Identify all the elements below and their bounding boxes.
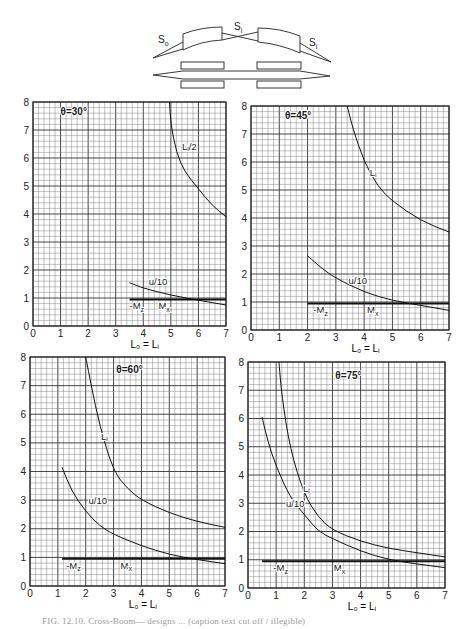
svg-text:1: 1 xyxy=(273,590,279,601)
svg-text:6: 6 xyxy=(241,157,247,168)
chart-panel-3: 01234567012345678L₀ = Lᵢθ=60°Lᵢu/10-MzMx xyxy=(20,352,228,611)
svg-text:Lᵢ: Lᵢ xyxy=(370,167,377,178)
svg-text:3: 3 xyxy=(23,237,29,248)
svg-text:0: 0 xyxy=(23,321,29,332)
svg-text:7: 7 xyxy=(238,385,244,396)
svg-text:3: 3 xyxy=(20,495,26,506)
svg-text:1: 1 xyxy=(241,297,247,308)
svg-text:0: 0 xyxy=(241,325,247,336)
svg-text:3: 3 xyxy=(241,241,247,252)
svg-text:0: 0 xyxy=(20,581,26,592)
svg-text:Mx: Mx xyxy=(367,304,379,318)
svg-text:u/10: u/10 xyxy=(89,495,108,506)
svg-text:5: 5 xyxy=(168,328,174,339)
svg-text:8: 8 xyxy=(20,352,26,363)
svg-text:Mx: Mx xyxy=(334,562,346,576)
svg-text:1: 1 xyxy=(20,552,26,563)
svg-text:θ=60°: θ=60° xyxy=(116,364,142,375)
svg-text:θ=75°: θ=75° xyxy=(335,370,361,381)
grid xyxy=(251,106,449,330)
svg-text:7: 7 xyxy=(222,588,228,599)
svg-text:-Mz: -Mz xyxy=(130,300,145,314)
figure-caption: FIG. 12.10. Cross-Boom— designs ... (cap… xyxy=(42,616,305,626)
svg-text:6: 6 xyxy=(23,153,29,164)
svg-text:u/10: u/10 xyxy=(349,275,368,286)
series-line xyxy=(62,467,225,563)
svg-text:0: 0 xyxy=(30,328,36,339)
grid xyxy=(30,357,225,586)
annotations: θ=75°Lᵢu/10-MzMx xyxy=(273,370,361,576)
svg-text:3: 3 xyxy=(111,588,117,599)
svg-text:4: 4 xyxy=(358,590,364,601)
svg-text:2: 2 xyxy=(241,269,247,280)
svg-text:6: 6 xyxy=(20,409,26,420)
svg-text:7: 7 xyxy=(442,590,448,601)
svg-text:4: 4 xyxy=(23,209,29,220)
svg-text:Lᵢ: Lᵢ xyxy=(303,483,310,494)
chart-panels: 01234567012345678L₀ = Lᵢθ=30°Lᵢ/2u/10-Mz… xyxy=(0,0,472,629)
annotations: θ=45°Lᵢu/10-MzMx xyxy=(285,110,379,318)
svg-text:2: 2 xyxy=(238,526,244,537)
svg-text:6: 6 xyxy=(238,413,244,424)
svg-text:-Mz: -Mz xyxy=(273,562,288,576)
svg-text:1: 1 xyxy=(238,554,244,565)
svg-text:-Mz: -Mz xyxy=(66,560,81,574)
grid xyxy=(248,362,445,588)
chart-panel-2: 01234567012345678L₀ = Lᵢθ=45°Lᵢu/10-MzMx xyxy=(241,101,452,355)
svg-text:Mx: Mx xyxy=(158,300,170,314)
chart-panel-1: 01234567012345678L₀ = Lᵢθ=30°Lᵢ/2u/10-Mz… xyxy=(23,97,229,351)
x-axis-label: L₀ = Lᵢ xyxy=(351,343,380,354)
svg-text:1: 1 xyxy=(23,293,29,304)
chart-panel-4: 01234567012345678L₀ = Lᵢθ=75°Lᵢu/10-MzMx xyxy=(238,357,448,613)
svg-text:0: 0 xyxy=(245,590,251,601)
svg-text:8: 8 xyxy=(241,101,247,112)
svg-text:5: 5 xyxy=(241,185,247,196)
svg-text:4: 4 xyxy=(20,466,26,477)
svg-text:2: 2 xyxy=(85,328,91,339)
svg-text:4: 4 xyxy=(141,328,147,339)
svg-text:3: 3 xyxy=(113,328,119,339)
svg-text:1: 1 xyxy=(58,328,64,339)
svg-text:5: 5 xyxy=(23,181,29,192)
svg-text:u/10: u/10 xyxy=(149,276,168,287)
svg-text:7: 7 xyxy=(223,328,229,339)
svg-text:4: 4 xyxy=(361,332,367,343)
svg-text:4: 4 xyxy=(238,470,244,481)
series-line xyxy=(130,283,227,305)
svg-text:3: 3 xyxy=(330,590,336,601)
svg-text:4: 4 xyxy=(241,213,247,224)
svg-text:5: 5 xyxy=(167,588,173,599)
svg-text:2: 2 xyxy=(20,523,26,534)
svg-text:0: 0 xyxy=(248,332,254,343)
grid xyxy=(33,102,226,326)
svg-text:Mx: Mx xyxy=(121,560,133,574)
svg-text:7: 7 xyxy=(20,380,26,391)
svg-text:5: 5 xyxy=(386,590,392,601)
svg-text:θ=45°: θ=45° xyxy=(285,110,311,121)
svg-text:6: 6 xyxy=(414,590,420,601)
svg-text:5: 5 xyxy=(390,332,396,343)
svg-text:7: 7 xyxy=(23,125,29,136)
svg-text:1: 1 xyxy=(55,588,61,599)
svg-text:Lᵢ/2: Lᵢ/2 xyxy=(182,141,197,152)
svg-text:7: 7 xyxy=(241,129,247,140)
svg-text:8: 8 xyxy=(23,97,29,108)
series-line xyxy=(169,102,226,217)
svg-text:u/10: u/10 xyxy=(286,498,305,509)
svg-text:-Mz: -Mz xyxy=(313,304,328,318)
svg-text:5: 5 xyxy=(238,441,244,452)
svg-text:2: 2 xyxy=(305,332,311,343)
svg-text:2: 2 xyxy=(302,590,308,601)
svg-text:1: 1 xyxy=(277,332,283,343)
x-axis-label: L₀ = Lᵢ xyxy=(348,601,377,612)
svg-text:0: 0 xyxy=(238,583,244,594)
svg-text:θ=30°: θ=30° xyxy=(61,106,87,117)
svg-text:6: 6 xyxy=(418,332,424,343)
svg-text:3: 3 xyxy=(333,332,339,343)
figure-page: So Si Si 01234567012345678L₀ = Lᵢθ=30°Lᵢ… xyxy=(0,0,472,629)
svg-text:6: 6 xyxy=(194,588,200,599)
svg-text:2: 2 xyxy=(23,265,29,276)
svg-text:2: 2 xyxy=(83,588,89,599)
x-axis-label: L₀ = Lᵢ xyxy=(129,599,158,610)
svg-text:8: 8 xyxy=(238,357,244,368)
